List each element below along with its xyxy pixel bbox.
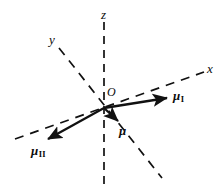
vector-label-mu-II-subscript: II <box>38 149 46 159</box>
vector-label-mu-II: μII <box>31 144 46 159</box>
axis-label-x: x <box>207 62 213 75</box>
vector-arrow-mu <box>104 108 118 121</box>
vector-label-mu: μ <box>119 124 127 139</box>
vector-label-mu-I-subscript: I <box>180 94 184 104</box>
axis-label-z: z <box>101 8 106 21</box>
axis-line-x <box>15 72 204 139</box>
vector-arrow-mu-I <box>104 98 167 108</box>
vector-label-mu-I: μI <box>173 89 184 104</box>
vector-label-mu-subscript <box>126 129 127 139</box>
vector-arrow-mu-II <box>48 108 104 139</box>
axis-label-y: y <box>49 33 55 46</box>
origin-label: O <box>107 86 116 98</box>
figure-canvas: z y x O μI μII μ <box>0 0 222 196</box>
